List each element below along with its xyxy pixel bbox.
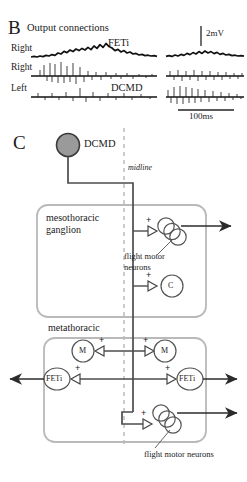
- synapse-sign-meta-m-right: +: [143, 336, 148, 345]
- metathoracic-ganglion-box: [44, 338, 206, 442]
- interneuron-c-label: C: [168, 282, 173, 290]
- synapse-sign-meta-feti-right: +: [165, 364, 170, 373]
- synapse-sign-meso-fmn: +: [146, 216, 151, 225]
- trace-right-feti-left: [31, 43, 157, 57]
- meso-c-synapse-triangle: [148, 281, 157, 291]
- metathoracic-label: metathoracic: [48, 322, 100, 334]
- meta-feti-left-synapse-triangle: [71, 374, 80, 384]
- meta-fmn-annotation: flight motor neurons: [144, 450, 214, 460]
- meso-fmn-synapse-triangle: [148, 226, 157, 236]
- synapse-sign-meta-feti-left: +: [75, 364, 80, 373]
- meta-feti-right-synapse-triangle: [167, 374, 176, 384]
- panel-b-traces: [31, 26, 244, 110]
- trace-right-feti-right: [166, 51, 244, 56]
- figure-canvas: [0, 0, 247, 482]
- meta-m-right-label: M: [161, 347, 168, 355]
- synapse-sign-meta-fmn: +: [141, 409, 146, 418]
- meta-m-right-synapse-triangle: [145, 346, 154, 356]
- scale-label-voltage: 2mV: [206, 29, 224, 38]
- midline-label: midline: [128, 164, 152, 172]
- trace-label-right-dcmd: Right: [11, 63, 32, 73]
- meso-fmn-annotation-line1: flight motor: [124, 252, 165, 262]
- spikes-left-dcmd-right: [168, 86, 241, 104]
- trace-group-label-dcmd: DCMD: [111, 83, 143, 94]
- trace-label-left-dcmd: Left: [11, 84, 27, 94]
- meta-fmn-synapse-triangle: [143, 419, 152, 429]
- panel-b-title: Output connections: [27, 23, 109, 34]
- mesothoracic-label-line1: mesothoracic: [46, 212, 99, 224]
- meta-m-left-synapse-triangle: [95, 346, 104, 356]
- panel-b-letter: B: [8, 18, 21, 37]
- meta-fmn-branch: [122, 412, 143, 424]
- panel-c-letter: C: [13, 133, 26, 152]
- meta-feti-left-label: FETi: [46, 375, 62, 383]
- trace-group-label-feti: FETi: [108, 38, 129, 49]
- dcmd-axon: [68, 156, 133, 412]
- figure-root: B Output connections Right Right Left FE…: [0, 0, 247, 482]
- trace-label-right-feti: Right: [11, 44, 32, 54]
- meta-fmn-leader: [155, 430, 170, 448]
- dcmd-soma-label: DCMD: [84, 139, 116, 150]
- dcmd-soma: [57, 134, 80, 157]
- meta-feti-right-label: FETi: [179, 375, 195, 383]
- spikes-right-dcmd-left: [40, 62, 152, 84]
- scale-label-time: 100ms: [189, 112, 213, 121]
- synapse-sign-meta-m-left: +: [99, 336, 104, 345]
- panel-c-circuit: [10, 128, 237, 448]
- synapse-sign-meso-c: +: [146, 271, 151, 280]
- mesothoracic-label-line2: ganglion: [46, 224, 81, 236]
- meta-m-left-label: M: [79, 347, 86, 355]
